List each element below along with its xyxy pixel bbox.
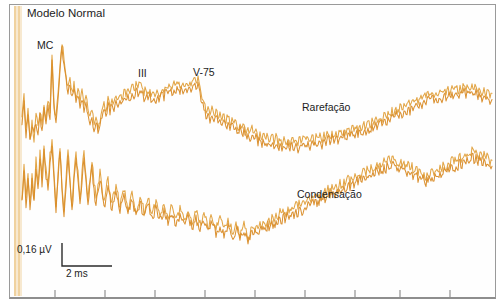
abr-waveform-figure: Modelo Normal MC III V-75 Rarefação Cond… bbox=[0, 0, 501, 308]
peak-marker-iii: III bbox=[138, 68, 147, 79]
scale-bar-time-label: 2 ms bbox=[66, 269, 88, 279]
trace-line bbox=[22, 146, 492, 244]
peak-marker-mc: MC bbox=[37, 40, 53, 51]
condition-label-rarefaction: Rarefação bbox=[302, 102, 350, 113]
scale-bar-amplitude-label: 0,16 µV bbox=[17, 245, 52, 255]
trace-line bbox=[22, 140, 492, 240]
scale-bar-lines bbox=[62, 243, 112, 266]
x-axis-tick-marks bbox=[55, 290, 450, 297]
trace-series-group bbox=[22, 45, 492, 244]
scale-bar bbox=[62, 243, 112, 266]
waveform-traces bbox=[0, 0, 501, 308]
trace-line bbox=[22, 47, 492, 153]
trace-line bbox=[22, 45, 492, 147]
condition-label-condensation: Condensação bbox=[297, 189, 362, 200]
page-title: Modelo Normal bbox=[27, 8, 105, 20]
peak-marker-v75: V-75 bbox=[193, 67, 215, 78]
